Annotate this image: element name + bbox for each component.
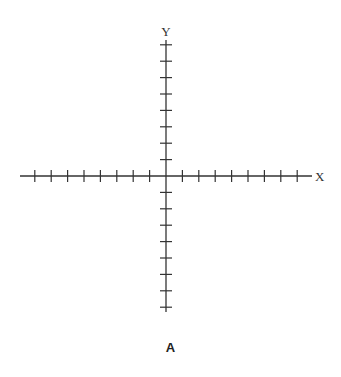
y-axis-label: Y bbox=[161, 24, 171, 39]
coordinate-axes: Y X bbox=[0, 0, 341, 377]
x-axis-label: X bbox=[315, 169, 325, 184]
figure-caption: A bbox=[0, 340, 341, 355]
